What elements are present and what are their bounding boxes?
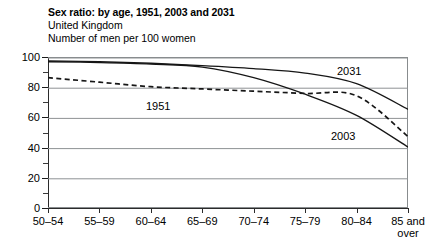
chart-heading: Sex ratio: by age, 1951, 2003 and 2031 U…	[48, 6, 428, 45]
x-axis-line	[48, 208, 409, 209]
chart-units-label: Number of men per 100 women	[48, 32, 428, 45]
x-tick-label-line: 65–69	[187, 215, 218, 227]
y-tick-label: 40	[6, 143, 40, 154]
y-tick-label: 20	[6, 173, 40, 184]
x-tick-label-line: 80–84	[341, 215, 372, 227]
x-tick	[357, 208, 358, 213]
chart-title: Sex ratio: by age, 1951, 2003 and 2031	[48, 6, 428, 19]
x-tick-label-line: 50–54	[33, 215, 64, 227]
series-annotation-2031: 2031	[337, 66, 361, 77]
x-tick-label-line: 60–64	[136, 215, 167, 227]
x-tick-label-line: over	[375, 227, 437, 239]
x-tick	[254, 208, 255, 213]
y-tick-label: 80	[6, 82, 40, 93]
y-tick-label: 60	[6, 112, 40, 123]
x-tick	[202, 208, 203, 213]
x-tick	[151, 208, 152, 213]
y-tick-label: 0	[6, 203, 40, 214]
x-tick-label-line: 75–79	[290, 215, 321, 227]
series-annotation-1951: 1951	[146, 101, 170, 112]
x-tick-label: 85 andover	[375, 215, 437, 239]
x-tick-label-line: 85 and	[391, 215, 425, 227]
x-tick-label-line: 55–59	[84, 215, 115, 227]
series-line-1951	[48, 78, 408, 137]
chart-page: Sex ratio: by age, 1951, 2003 and 2031 U…	[0, 0, 437, 242]
series-annotation-2003: 2003	[331, 131, 355, 142]
x-tick	[305, 208, 306, 213]
chart-subtitle: United Kingdom	[48, 19, 428, 32]
y-tick-label: 100	[6, 52, 40, 63]
x-tick	[99, 208, 100, 213]
x-tick-label-line: 70–74	[238, 215, 269, 227]
x-tick	[48, 208, 49, 213]
x-tick	[408, 208, 409, 213]
